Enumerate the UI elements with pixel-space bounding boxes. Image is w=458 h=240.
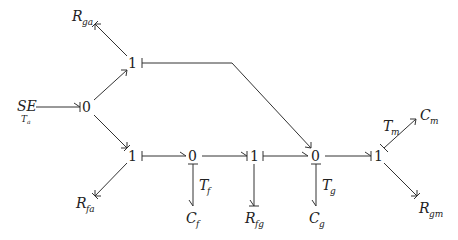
bond-se-to-0 <box>36 102 80 112</box>
svg-text:m: m <box>430 116 439 126</box>
bond-1fg-to-rfg <box>249 164 259 206</box>
bond-0f-to-cf <box>188 164 198 206</box>
resistor-rga: R ga <box>71 8 93 27</box>
svg-text:g: g <box>330 186 336 196</box>
label-tf: T f <box>199 177 212 196</box>
junction-1-m: 1 <box>374 148 383 164</box>
svg-text:SE: SE <box>17 98 37 114</box>
bond-1bottom-to-0f <box>142 151 186 161</box>
junction-1-top: 1 <box>128 55 137 71</box>
junction-1-bottom: 1 <box>128 148 137 164</box>
label-tg: T g <box>322 177 336 196</box>
svg-text:fg: fg <box>254 219 264 229</box>
junction-1-fg: 1 <box>250 148 259 164</box>
bond-0g-to-1m <box>325 151 371 161</box>
bond-0-to-1top <box>94 70 127 100</box>
junction-0-source: 0 <box>82 99 91 115</box>
capacitor-cg: C g <box>309 210 325 229</box>
bond-1top-to-rga <box>92 21 127 56</box>
source-se: SE T a <box>17 98 37 125</box>
bond-0f-to-1fg <box>202 151 247 161</box>
bond-1top-to-0g <box>142 58 311 148</box>
junction-0-g: 0 <box>311 148 320 164</box>
bond-1m-to-rgm <box>384 163 420 199</box>
label-tm: T m <box>383 118 400 137</box>
bond-1fg-to-0g <box>263 151 308 161</box>
svg-text:m: m <box>391 127 400 137</box>
bonds <box>36 21 420 206</box>
capacitor-cm: C m <box>420 107 439 126</box>
resistor-rfg: R fg <box>244 210 264 229</box>
resistor-rfa: R fa <box>75 195 95 214</box>
bond-0-to-1bottom <box>94 115 130 151</box>
bond-0g-to-cg <box>311 164 321 206</box>
svg-text:gm: gm <box>429 209 443 219</box>
svg-text:a: a <box>27 118 31 125</box>
elements: SE T a R ga R fa T f C f R fg T <box>17 8 443 229</box>
bond-1bottom-to-rfa <box>92 163 127 199</box>
svg-text:g: g <box>319 219 325 229</box>
svg-text:f: f <box>206 186 212 196</box>
capacitor-cf: C f <box>186 210 201 229</box>
junction-0-f: 0 <box>188 148 197 164</box>
bond-graph-diagram: 0 1 1 0 1 0 1 SE T a R ga R fa T f C <box>0 0 458 240</box>
resistor-rgm: R gm <box>418 200 443 219</box>
svg-text:fa: fa <box>85 204 95 214</box>
svg-text:f: f <box>195 219 201 229</box>
svg-text:ga: ga <box>82 17 93 27</box>
